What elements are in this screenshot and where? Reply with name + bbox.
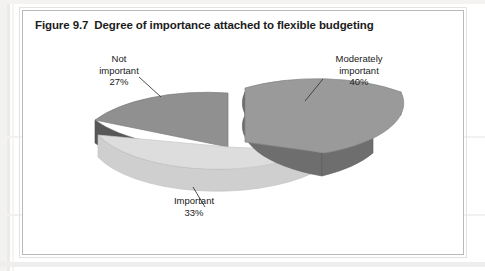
- figure-title: Figure 9.7Degree of importance attached …: [35, 19, 374, 31]
- scanned-page: Figure 9.7Degree of importance attached …: [0, 0, 485, 271]
- slice-label-not-important-line1: Not: [112, 53, 127, 64]
- scan-artifact-top-line: [0, 0, 485, 4]
- slice-label-important: Important 33%: [151, 195, 237, 218]
- slice-label-not-important-pct: 27%: [81, 76, 157, 88]
- slice-label-moderately-important: Moderately important 40%: [311, 53, 407, 88]
- slice-label-moderately-important-line2: important: [339, 65, 379, 76]
- scan-artifact-left-band: [7, 0, 10, 271]
- slice-label-not-important: Not important 27%: [81, 53, 157, 88]
- pie-slice-moderately-important-top: [245, 79, 404, 153]
- slice-label-important-line1: Important: [174, 195, 214, 206]
- pie-chart: Not important 27% Moderately important 4…: [23, 35, 463, 254]
- scan-artifact-bottom-line: [0, 262, 485, 267]
- scan-artifact-left-band-2: [12, 0, 14, 271]
- figure-number: Figure 9.7: [35, 19, 88, 31]
- slice-label-not-important-line2: important: [99, 65, 139, 76]
- figure-caption: Degree of importance attached to flexibl…: [94, 19, 373, 31]
- figure-frame: Figure 9.7Degree of importance attached …: [22, 10, 464, 255]
- slice-label-moderately-important-line1: Moderately: [336, 53, 383, 64]
- slice-label-important-pct: 33%: [151, 207, 237, 219]
- slice-label-moderately-important-pct: 40%: [311, 76, 407, 88]
